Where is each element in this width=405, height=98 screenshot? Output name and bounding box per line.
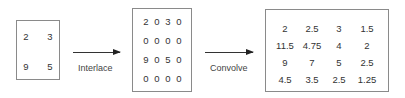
matrix-cell: 4.5 [270, 74, 300, 85]
matrix-cell: 11.5 [270, 40, 300, 51]
matrix-cell: 0 [164, 35, 194, 46]
matrix-cell: 4 [324, 40, 354, 51]
matrix-cell: 2 [270, 23, 300, 34]
arrow-right-icon [73, 52, 120, 53]
arrow-right-icon [205, 52, 253, 53]
matrix-cell: 4.75 [297, 40, 327, 51]
matrix-cell: 7 [297, 57, 327, 68]
matrix-cell: 2.5 [297, 23, 327, 34]
convolved-matrix: 2 2.5 3 1.5 11.5 4.75 4 2 9 7 5 2.5 4.5 … [265, 9, 389, 92]
matrix-cell: 5 [35, 61, 65, 72]
matrix-cell: 1.5 [352, 23, 382, 34]
matrix-cell: 2.5 [324, 74, 354, 85]
matrix-cell: 2.5 [352, 57, 382, 68]
matrix-cell: 0 [164, 73, 194, 84]
matrix-cell: 3 [324, 23, 354, 34]
input-matrix: 2 3 9 5 [16, 20, 60, 80]
matrix-cell: 9 [270, 57, 300, 68]
interlaced-matrix: 2 0 3 0 0 0 0 0 9 0 5 0 0 0 0 0 [132, 8, 192, 92]
matrix-cell: 5 [324, 57, 354, 68]
convolve-label: Convolve [210, 63, 248, 73]
matrix-cell: 1.25 [352, 74, 382, 85]
matrix-cell: 2 [352, 40, 382, 51]
matrix-cell: 3 [35, 31, 65, 42]
matrix-cell: 0 [164, 54, 194, 65]
interlace-label: Interlace [78, 63, 113, 73]
matrix-cell: 3.5 [297, 74, 327, 85]
matrix-cell: 0 [164, 16, 194, 27]
